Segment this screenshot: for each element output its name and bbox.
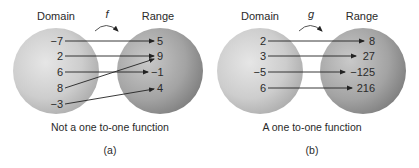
caption: A one to-one function [262,121,361,133]
panel-sublabel: (a) [104,144,117,156]
range-value: −1 [151,66,164,78]
panel-b: Domain Range g 2 3 −5 6 8 27 −125 216 A … [217,8,406,156]
domain-value: −5 [253,66,266,78]
domain-value: 8 [57,82,63,94]
range-value: 4 [157,82,163,94]
domain-label: Domain [37,10,75,22]
range-value: 9 [157,50,163,62]
caption: Not a one to-one function [51,121,169,133]
range-value: −125 [350,66,375,78]
domain-value: 2 [57,50,63,62]
domain-value: 6 [57,66,63,78]
domain-value: 3 [260,50,266,62]
domain-label: Domain [241,10,279,22]
function-name: f [105,8,109,20]
domain-value: 6 [260,82,266,94]
range-label: Range [142,10,174,22]
diagram-canvas: Domain Range f −7 2 6 8 −3 5 9 −1 4 Not … [0,0,419,168]
domain-value: −3 [50,98,63,110]
range-value: 216 [357,82,375,94]
range-value: 8 [369,35,375,47]
panel-a: Domain Range f −7 2 6 8 −3 5 9 −1 4 Not … [13,8,203,156]
range-value: 27 [363,50,375,62]
range-label: Range [346,10,378,22]
function-name: g [308,8,315,20]
panel-sublabel: (b) [306,144,319,156]
domain-value: −7 [50,35,63,47]
mapping-curve-arrow-icon [299,26,322,32]
range-value: 5 [157,35,163,47]
domain-value: 2 [260,35,266,47]
mapping-curve-arrow-icon [95,26,118,32]
